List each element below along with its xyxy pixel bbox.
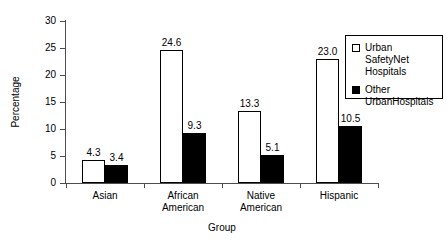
y-tick-label: 5 <box>36 151 56 161</box>
legend-item-other-urban-hospitals: Other UrbanHospitals <box>352 84 437 108</box>
x-category-label: Hispanic <box>300 190 378 202</box>
x-tick-mark <box>66 183 67 188</box>
bar-value-label: 3.4 <box>99 152 134 163</box>
x-category-label-line: African <box>144 190 222 202</box>
plot-area: 4.33.424.69.313.35.123.010.5 <box>66 21 378 183</box>
bar <box>183 133 206 183</box>
y-tick-label: 20 <box>36 70 56 80</box>
x-category-label: NativeAmerican <box>222 190 300 214</box>
x-tick-mark <box>378 183 379 188</box>
legend-swatch-filled-icon <box>352 86 360 94</box>
y-tick-mark <box>60 48 65 49</box>
bar <box>105 165 128 183</box>
x-category-label: Asian <box>66 190 144 202</box>
legend: Urban SafetyNet Hospitals Other UrbanHos… <box>345 35 443 99</box>
bar-value-label: 13.3 <box>232 98 267 109</box>
y-axis-title: Percentage <box>10 62 21 142</box>
x-category-label-line: American <box>222 202 300 214</box>
x-category-label-line: Asian <box>66 190 144 202</box>
legend-label-other-urban-hospitals: Other UrbanHospitals <box>365 84 437 108</box>
legend-swatch-open-icon <box>352 44 360 52</box>
x-category-label: AfricanAmerican <box>144 190 222 214</box>
y-tick-mark <box>60 102 65 103</box>
bar <box>82 160 105 183</box>
bar <box>261 155 284 183</box>
y-tick-mark <box>60 21 65 22</box>
y-tick-label: 0 <box>36 178 56 188</box>
y-tick-mark <box>60 129 65 130</box>
bar <box>160 50 183 183</box>
x-category-label-line: Native <box>222 190 300 202</box>
x-tick-mark <box>300 183 301 188</box>
bar-value-label: 5.1 <box>255 142 290 153</box>
x-category-label-line: American <box>144 202 222 214</box>
bar <box>339 126 362 183</box>
y-tick-mark <box>60 183 65 184</box>
y-tick-label: 15 <box>36 97 56 107</box>
bar-value-label: 10.5 <box>333 113 368 124</box>
y-tick-mark <box>60 75 65 76</box>
y-tick-label: 25 <box>36 43 56 53</box>
x-axis-title: Group <box>66 222 378 233</box>
bar-value-label: 24.6 <box>154 37 189 48</box>
legend-label-urban-safety-net-hospitals: Urban SafetyNet Hospitals <box>365 42 437 78</box>
bar-chart: Percentage 051015202530 4.33.424.69.313.… <box>0 0 448 242</box>
x-tick-mark <box>222 183 223 188</box>
x-category-label-line: Hispanic <box>300 190 378 202</box>
bar-value-label: 9.3 <box>177 120 212 131</box>
bar-value-label: 23.0 <box>310 46 345 57</box>
x-tick-mark <box>144 183 145 188</box>
y-tick-label: 10 <box>36 124 56 134</box>
y-tick-mark <box>60 156 65 157</box>
y-tick-label: 30 <box>36 16 56 26</box>
legend-item-urban-safety-net-hospitals: Urban SafetyNet Hospitals <box>352 42 437 78</box>
